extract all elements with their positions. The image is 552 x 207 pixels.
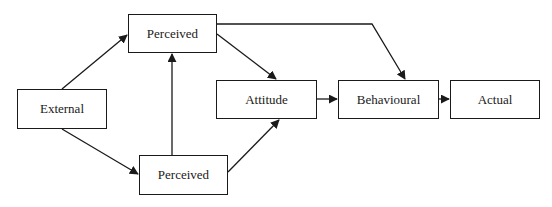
- node-actual: Actual: [450, 80, 540, 119]
- node-perceived-top: Perceived: [128, 14, 217, 53]
- node-external: External: [17, 89, 107, 129]
- node-label: External: [40, 101, 84, 117]
- node-perceived-bottom: Perceived: [139, 155, 228, 195]
- node-label: Actual: [478, 92, 513, 108]
- node-label: Behavioural: [357, 92, 421, 108]
- node-attitude: Attitude: [216, 80, 317, 119]
- node-label: Perceived: [158, 167, 209, 183]
- diagram-canvas: Perceived External Perceived Attitude Be…: [0, 0, 552, 207]
- edge-external-to-perceived-top: [62, 35, 127, 89]
- edge-perceived-bottom-to-attitude: [228, 120, 279, 172]
- edge-external-to-perceived-bottom: [62, 129, 138, 174]
- edge-perceived-top-to-behavioural: [217, 24, 405, 79]
- node-label: Attitude: [245, 92, 288, 108]
- node-behavioural: Behavioural: [338, 80, 439, 119]
- edge-perceived-top-to-attitude: [217, 34, 276, 79]
- node-label: Perceived: [147, 26, 198, 42]
